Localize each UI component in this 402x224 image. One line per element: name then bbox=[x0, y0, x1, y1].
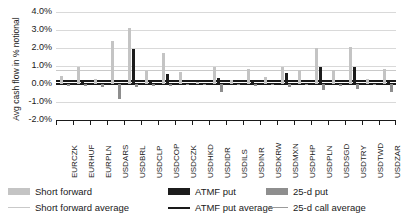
bar-d25-put bbox=[118, 84, 121, 99]
bar-group bbox=[294, 12, 311, 120]
bar-short-forward bbox=[60, 76, 63, 84]
x-axis-tick bbox=[395, 120, 396, 125]
bar-series-container bbox=[56, 12, 396, 120]
x-axis-tick bbox=[243, 120, 244, 125]
x-axis-tick bbox=[226, 120, 227, 125]
x-axis-tick bbox=[175, 120, 176, 125]
x-axis-tick bbox=[260, 120, 261, 125]
bar-group bbox=[192, 12, 209, 120]
bar-d25-put bbox=[356, 84, 359, 89]
x-axis-label-usdsgd: USDSGD bbox=[343, 144, 351, 178]
bar-d25-put bbox=[135, 84, 138, 87]
legend-item-short-forward[interactable]: Short forward bbox=[8, 184, 92, 199]
legend-swatch-bar-icon bbox=[266, 188, 288, 195]
legend-item-25-d-put[interactable]: 25-d put bbox=[266, 184, 328, 199]
bar-group bbox=[362, 12, 379, 120]
bar-atmf-put bbox=[98, 83, 101, 84]
bar-d25-put bbox=[220, 84, 223, 92]
bar-d25-put bbox=[373, 84, 376, 85]
bar-short-forward bbox=[349, 47, 352, 84]
bar-d25-put bbox=[67, 84, 70, 86]
bar-group bbox=[226, 12, 243, 120]
legend-label: 25-d put bbox=[293, 186, 328, 197]
chart-legend: Short forwardATMF put25-d putShort forwa… bbox=[8, 184, 396, 222]
x-axis-tick bbox=[209, 120, 210, 125]
bar-d25-put bbox=[271, 84, 274, 85]
x-axis-tick bbox=[345, 120, 346, 125]
bar-group bbox=[277, 12, 294, 120]
bar-d25-put bbox=[237, 84, 240, 85]
bar-d25-put bbox=[288, 84, 291, 87]
bar-short-forward bbox=[128, 28, 131, 84]
bar-atmf-put bbox=[387, 80, 390, 84]
x-axis-label-usdcop: USDCOP bbox=[173, 144, 181, 178]
bar-short-forward bbox=[213, 67, 216, 84]
y-axis-tick-label: 3.0% bbox=[12, 25, 52, 34]
bar-atmf-put bbox=[319, 67, 322, 84]
bar-d25-put bbox=[152, 84, 155, 86]
bar-group bbox=[56, 12, 73, 120]
bar-atmf-put bbox=[370, 83, 373, 84]
bar-atmf-put bbox=[336, 83, 339, 84]
bar-short-forward bbox=[383, 69, 386, 84]
x-axis-tick bbox=[328, 120, 329, 125]
x-axis-tick bbox=[56, 120, 57, 125]
bar-atmf-put bbox=[268, 83, 271, 84]
bar-atmf-put bbox=[115, 83, 118, 84]
x-axis-label-usdmxn: USDMXN bbox=[292, 143, 300, 178]
x-axis-tick bbox=[124, 120, 125, 125]
x-axis-label-eurczk: EURCZK bbox=[71, 145, 79, 178]
bar-short-forward bbox=[332, 70, 335, 84]
bar-atmf-put bbox=[81, 82, 84, 84]
bar-short-forward bbox=[162, 53, 165, 85]
x-axis-label-usdhkd: USDHKD bbox=[207, 144, 215, 178]
x-axis-label-usdtwd: USDTWD bbox=[377, 143, 385, 178]
legend-item-25-d-call-average[interactable]: 25-d call average bbox=[266, 200, 366, 215]
bar-d25-put bbox=[169, 84, 172, 86]
x-axis-tick bbox=[379, 120, 380, 125]
bar-atmf-put bbox=[64, 83, 67, 84]
bar-d25-put bbox=[339, 84, 342, 86]
x-axis-label-usdtry: USDTRY bbox=[360, 145, 368, 178]
bar-short-forward bbox=[281, 67, 284, 84]
bar-group bbox=[158, 12, 175, 120]
bar-atmf-put bbox=[183, 83, 186, 84]
bar-short-forward bbox=[298, 70, 301, 84]
y-axis-tick-label: 1.0% bbox=[12, 61, 52, 70]
legend-swatch-bar-icon bbox=[8, 188, 30, 195]
legend-item-atmf-put[interactable]: ATMF put bbox=[168, 184, 236, 199]
bar-group bbox=[243, 12, 260, 120]
bar-short-forward bbox=[145, 71, 148, 85]
legend-label: Short forward average bbox=[35, 202, 129, 213]
x-axis-label-usdidr: USDIDR bbox=[224, 147, 232, 178]
bar-atmf-put bbox=[302, 83, 305, 84]
bar-d25-put bbox=[322, 84, 325, 90]
x-axis-label-usdinr: USDINR bbox=[258, 147, 266, 178]
bar-atmf-put bbox=[200, 84, 203, 85]
x-axis-label-usdkrw: USDKRW bbox=[275, 143, 283, 178]
x-axis-label-usdars: USDARS bbox=[122, 145, 130, 178]
legend-swatch-line-icon bbox=[266, 207, 288, 208]
legend-swatch-line-icon bbox=[8, 207, 30, 208]
legend-item-short-forward-average[interactable]: Short forward average bbox=[8, 200, 129, 215]
x-axis-label-usdpln: USDPLN bbox=[326, 146, 334, 178]
bar-d25-put bbox=[101, 84, 104, 87]
bar-d25-put bbox=[254, 84, 257, 86]
bar-short-forward bbox=[111, 41, 114, 84]
bar-short-forward bbox=[77, 67, 80, 84]
bar-group bbox=[209, 12, 226, 120]
bar-d25-put bbox=[390, 84, 393, 92]
bar-group bbox=[379, 12, 396, 120]
bar-d25-put bbox=[203, 84, 206, 85]
legend-item-atmf-put-average[interactable]: ATMF put average bbox=[168, 200, 273, 215]
bar-group bbox=[90, 12, 107, 120]
y-axis-tick-label: 4.0% bbox=[12, 7, 52, 16]
legend-label: ATMF put average bbox=[195, 202, 273, 213]
x-axis-tick bbox=[311, 120, 312, 125]
x-axis-label-usdbrl: USDBRL bbox=[139, 146, 147, 178]
bar-atmf-put bbox=[166, 74, 169, 84]
bar-short-forward bbox=[264, 77, 267, 84]
bar-short-forward bbox=[315, 48, 318, 84]
bar-short-forward bbox=[247, 69, 250, 84]
bar-group bbox=[175, 12, 192, 120]
